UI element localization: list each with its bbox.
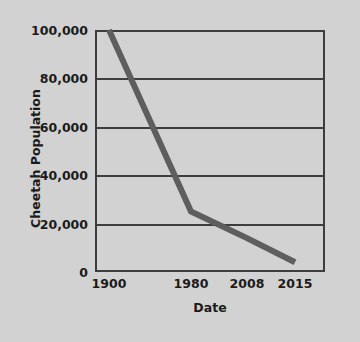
y-tick-100000: 100,000 (31, 23, 88, 38)
x-tick-2015: 2015 (278, 276, 313, 291)
x-tick-1980: 1980 (174, 276, 209, 291)
x-axis-label: Date (95, 300, 325, 315)
y-tick-40000: 40,000 (40, 168, 88, 183)
y-tick-20000: 20,000 (40, 216, 88, 231)
series-cheetah-population (95, 30, 325, 272)
y-axis-label: Cheetah Population (28, 69, 43, 249)
x-axis-tick-labels: 1900 1980 2008 2015 (95, 276, 325, 296)
chart-container: 0 20,000 40,000 60,000 80,000 100,000 19… (0, 0, 360, 342)
y-tick-60000: 60,000 (40, 119, 88, 134)
plot-wrapper (95, 30, 325, 272)
x-tick-2008: 2008 (230, 276, 265, 291)
y-tick-0: 0 (79, 265, 88, 280)
x-tick-1900: 1900 (92, 276, 127, 291)
y-tick-80000: 80,000 (40, 71, 88, 86)
line-path (109, 30, 295, 262)
